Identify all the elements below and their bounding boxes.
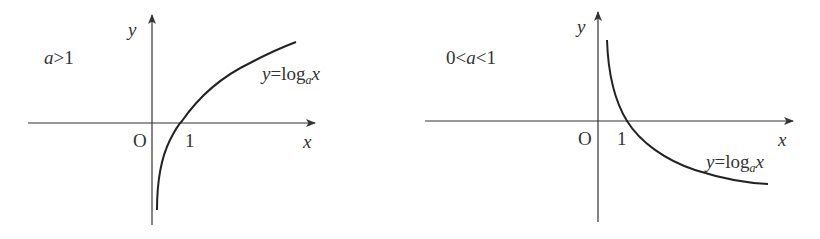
left-y-axis-label: y [128, 20, 136, 39]
equation-function: log [725, 151, 749, 172]
equation-argument: x [755, 151, 763, 172]
right-origin-label: O [578, 129, 592, 148]
right-panel [425, 12, 793, 222]
condition-number: 1 [64, 47, 74, 68]
equation-argument: x [311, 63, 319, 84]
left-origin-label: O [133, 131, 147, 150]
left-condition-label: a>1 [44, 48, 74, 67]
condition-var: a [466, 47, 476, 68]
condition-relation-lower: < [456, 47, 467, 68]
right-equation-label: y=logax [706, 152, 764, 174]
log-function-graphs [0, 0, 820, 239]
condition-lower-bound: 0 [446, 47, 456, 68]
right-tick-one-label: 1 [617, 129, 627, 148]
equation-equals: = [714, 151, 725, 172]
condition-upper-bound: 1 [486, 47, 496, 68]
left-tick-one-label: 1 [185, 131, 195, 150]
equation-function: log [281, 63, 305, 84]
left-equation-label: y=logax [262, 64, 320, 86]
left-x-axis-label: x [303, 132, 311, 151]
condition-relation-upper: < [476, 47, 487, 68]
right-y-axis-label: y [577, 17, 585, 36]
condition-var: a [44, 47, 54, 68]
right-x-axis-label: x [778, 130, 786, 149]
right-condition-label: 0<a<1 [446, 48, 496, 67]
equation-equals: = [270, 63, 281, 84]
condition-relation: > [54, 47, 65, 68]
